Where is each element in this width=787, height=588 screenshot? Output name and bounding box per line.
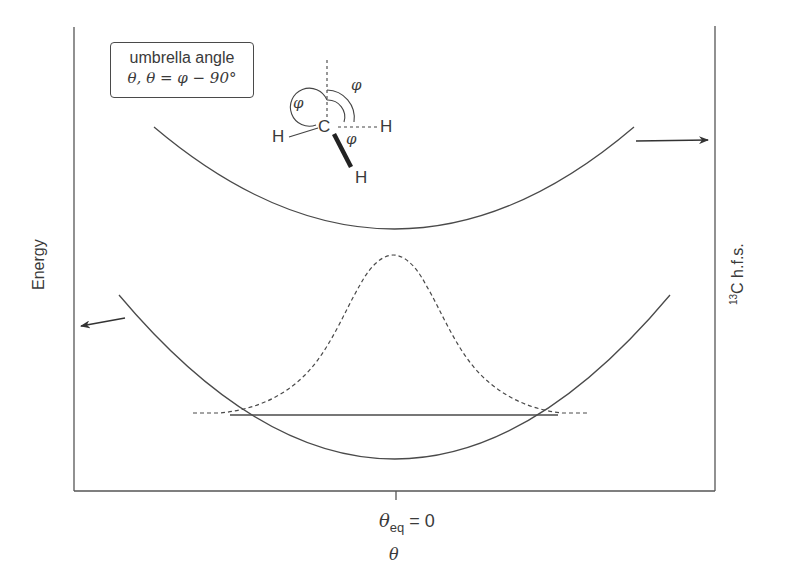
isotope-superscript: 13 <box>728 294 739 305</box>
hfs-label-text: C h.f.s. <box>729 243 746 294</box>
phi-label-left: φ <box>293 94 304 112</box>
legend-formula-rhs: θ = φ − 90° <box>146 69 236 87</box>
hydrogen-right-label: H <box>380 117 392 137</box>
probability-distribution-curve <box>193 255 590 413</box>
phi-label-bottom: φ <box>346 130 357 148</box>
y-axis-label-energy: Energy <box>30 239 48 290</box>
legend-title: umbrella angle <box>111 48 253 68</box>
legend-formula-theta: θ, <box>128 69 142 87</box>
legend-formula: θ, θ = φ − 90° <box>111 68 253 88</box>
y-axis-label-hfs: 13C h.f.s. <box>728 243 747 305</box>
carbon-atom-label: C <box>318 117 330 137</box>
arrow-to-right-axis <box>636 140 708 141</box>
x-axis-label: θ <box>389 545 399 564</box>
x-tick-symbol: θ <box>379 510 390 531</box>
arrow-to-left-axis <box>81 318 125 326</box>
energy-curve <box>119 295 670 459</box>
x-tick-subscript: eq <box>390 520 404 535</box>
hydrogen-bottom-label: H <box>355 168 367 188</box>
phi-label-top-right: φ <box>351 76 362 94</box>
legend-box: umbrella angle θ, θ = φ − 90° <box>110 42 254 98</box>
hydrogen-left-label: H <box>272 127 284 147</box>
bond-left-h <box>289 128 318 137</box>
hfs-curve <box>154 127 634 229</box>
x-tick-label: θeq = 0 <box>379 510 435 535</box>
x-tick-value: = 0 <box>404 511 435 531</box>
